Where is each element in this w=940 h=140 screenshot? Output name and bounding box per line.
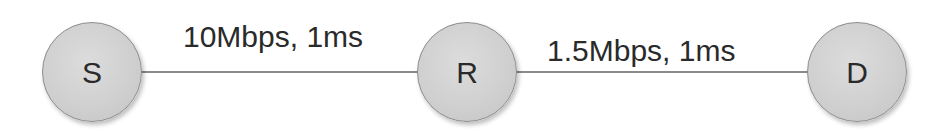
link-label-r-d: 1.5Mbps, 1ms bbox=[547, 36, 735, 66]
node-s: S bbox=[42, 22, 142, 122]
node-label-s: S bbox=[82, 58, 102, 88]
link-r-d bbox=[516, 71, 808, 73]
link-s-r bbox=[142, 71, 418, 73]
node-r: R bbox=[417, 22, 517, 122]
node-label-d: D bbox=[846, 58, 868, 88]
node-label-r: R bbox=[456, 58, 478, 88]
node-d: D bbox=[807, 22, 907, 122]
link-label-s-r: 10Mbps, 1ms bbox=[183, 22, 363, 52]
